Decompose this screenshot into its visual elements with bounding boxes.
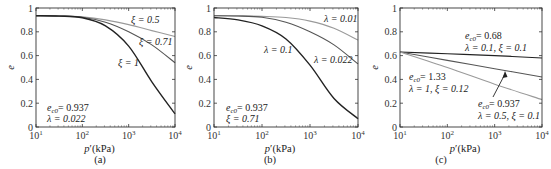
x-tick-label: 104: [535, 129, 549, 141]
curve-label-lambda-0.1: λ = 0.1: [263, 44, 293, 55]
x-tick-label: 101: [29, 129, 43, 141]
y-tick-label: 1: [392, 3, 397, 14]
y-axis-label: e: [183, 65, 194, 70]
y-tick-label: 0.4: [385, 74, 398, 85]
curve-label-xi-0.71: ξ = 0.71: [139, 36, 173, 48]
curve-label-xi-0.5: ξ = 0.5: [131, 14, 160, 26]
x-tick-label: 103: [488, 129, 502, 141]
x-tick-label: 104: [351, 129, 365, 141]
x-tick-label: 104: [168, 129, 182, 141]
caption-b: (b): [264, 154, 277, 166]
y-tick-label: 0.8: [385, 26, 398, 37]
param-lambda: λ = 0.022: [46, 113, 86, 124]
y-tick-label: 1: [206, 3, 211, 14]
x-tick-label: 102: [255, 129, 269, 141]
y-tick-label: 0.2: [385, 98, 398, 109]
curve-label-ec0-1.33-params: λ = 1, ξ = 0.12: [408, 83, 469, 95]
panel-a: 00.20.40.60.81101102103104ep′(kPa): [5, 3, 182, 156]
panel-b: 00.20.40.60.81101102103104ep′(kPa): [183, 3, 365, 156]
y-tick-label: 0.6: [21, 50, 34, 61]
curve-label-lambda-0.022: λ = 0.022: [313, 54, 353, 65]
curve-label-lambda-0.01: λ = 0.01: [323, 13, 358, 24]
y-tick-label: 0.8: [199, 26, 212, 37]
series-line: [214, 18, 358, 119]
x-tick-label: 102: [441, 129, 455, 141]
series-line: [36, 16, 175, 114]
y-axis-label: e: [5, 65, 16, 70]
y-tick-label: 0.2: [199, 98, 212, 109]
x-tick-label: 101: [393, 129, 407, 141]
y-tick-label: 0.6: [199, 50, 212, 61]
y-tick-label: 0.2: [21, 98, 34, 109]
figure-canvas: 00.20.40.60.81101102103104ep′(kPa) 00.20…: [0, 0, 551, 169]
y-tick-label: 1: [28, 3, 33, 14]
x-tick-label: 102: [76, 129, 90, 141]
curve-label-ec0-0.937-params: λ = 0.5, ξ = 0.1: [477, 110, 540, 122]
x-tick-label: 103: [122, 129, 136, 141]
y-tick-label: 0.4: [199, 74, 212, 85]
x-tick-label: 101: [207, 129, 221, 141]
y-tick-label: 0.6: [385, 50, 398, 61]
param-xi: ξ = 0.71: [226, 113, 260, 125]
x-axis-label: p′(kPa): [449, 143, 481, 155]
y-axis-label: e: [369, 65, 380, 70]
caption-c: (c): [435, 154, 447, 166]
curve-label-xi-1: ξ = 1: [118, 57, 139, 69]
x-tick-label: 103: [303, 129, 317, 141]
curve-label-ec0-0.68-params: λ = 0.1, ξ = 0.1: [464, 42, 527, 54]
y-tick-label: 0.4: [21, 74, 34, 85]
caption-a: (a): [94, 154, 106, 166]
panel-c: 00.20.40.60.81101102103104ep′(kPa): [369, 3, 549, 156]
y-tick-label: 0.8: [21, 26, 34, 37]
